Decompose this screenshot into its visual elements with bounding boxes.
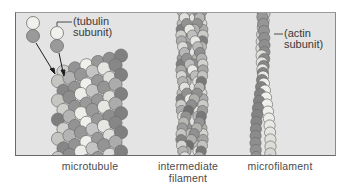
- free-tubulin-dimer-left: [27, 17, 40, 43]
- cytoskeleton-figure: (tubulin subunit) (actin subunit) microt…: [0, 0, 343, 191]
- free-tubulin-dimer-right: [51, 27, 64, 53]
- tubulin-subunit-label: (tubulin subunit): [73, 16, 112, 38]
- actin-subunit-label: (actin subunit): [284, 28, 323, 50]
- caption-microfilament: microfilament: [240, 160, 320, 172]
- microfilament-drawing: [250, 4, 276, 166]
- caption-intermediate-filament: intermediate filament: [148, 160, 228, 184]
- caption-microtubule: microtubule: [50, 160, 130, 172]
- intermediate-filament-drawing: [176, 7, 208, 162]
